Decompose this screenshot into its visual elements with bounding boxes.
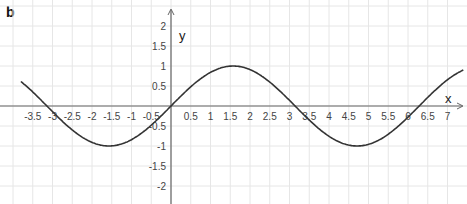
y-tick-label: -2 <box>157 181 166 192</box>
y-tick-label: 0.5 <box>152 81 166 92</box>
x-tick-label: 6.5 <box>421 111 435 122</box>
y-tick-label: 2 <box>160 21 166 32</box>
y-tick-label: -1 <box>157 141 166 152</box>
x-tick-label: 3 <box>287 111 293 122</box>
x-tick-label: 0.5 <box>184 111 198 122</box>
x-tick-label: 5.5 <box>381 111 395 122</box>
x-tick-label: 1 <box>208 111 214 122</box>
x-tick-label: 5 <box>366 111 372 122</box>
x-tick-label: 2.5 <box>263 111 277 122</box>
x-tick-label: 7 <box>445 111 451 122</box>
x-tick-label: 4 <box>326 111 332 122</box>
grid-lines <box>0 0 467 204</box>
x-tick-label: -1 <box>127 111 136 122</box>
x-tick-label: 4.5 <box>342 111 356 122</box>
x-tick-label: -2 <box>88 111 97 122</box>
y-tick-label: 1.5 <box>152 41 166 52</box>
x-tick-label: -2.5 <box>64 111 82 122</box>
x-tick-label: -3.5 <box>24 111 42 122</box>
axes <box>0 9 463 204</box>
y-axis-label: y <box>179 28 186 43</box>
y-tick-label: 1 <box>160 61 166 72</box>
y-tick-label: -1.5 <box>149 161 167 172</box>
x-axis-label: x <box>445 91 452 106</box>
x-tick-label: -1.5 <box>103 111 121 122</box>
sine-chart: -3.5-3-2.5-2-1.5-1-0.50.511.522.533.544.… <box>0 0 467 204</box>
y-tick-label: -0.5 <box>149 121 167 132</box>
x-tick-label: 2 <box>247 111 253 122</box>
x-tick-label: 1.5 <box>223 111 237 122</box>
